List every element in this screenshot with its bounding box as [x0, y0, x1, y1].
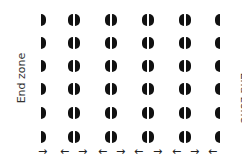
half-disc-left-icon [179, 37, 184, 49]
arrow-right-icon: → [116, 146, 125, 157]
end-zone-label-right: End zone [238, 73, 243, 124]
half-disc-right-icon [186, 131, 191, 143]
arrow-left-icon: ← [60, 146, 69, 157]
half-disc-right-icon [186, 107, 191, 119]
half-disc-left-icon [105, 14, 110, 26]
half-disc-right-icon [75, 83, 80, 95]
half-disc-right-icon [75, 60, 80, 72]
half-disc-right-icon [41, 37, 46, 49]
half-disc-left-icon [142, 131, 147, 143]
half-disc-left-icon [215, 60, 220, 72]
half-disc-right-icon [149, 37, 154, 49]
half-disc-left-icon [68, 83, 73, 95]
half-disc-right-icon [186, 60, 191, 72]
half-disc-left-icon [68, 107, 73, 119]
half-disc-left-icon [68, 14, 73, 26]
arrow-right-icon: → [38, 146, 47, 157]
end-zone-label-left: End zone [15, 53, 28, 104]
half-disc-right-icon [149, 83, 154, 95]
half-disc-left-icon [105, 83, 110, 95]
half-disc-right-icon [112, 60, 117, 72]
half-disc-right-icon [112, 131, 117, 143]
half-disc-right-icon [41, 107, 46, 119]
half-disc-left-icon [179, 60, 184, 72]
half-disc-left-icon [142, 14, 147, 26]
half-disc-right-icon [149, 60, 154, 72]
arrow-right-icon: → [78, 146, 87, 157]
half-disc-right-icon [112, 83, 117, 95]
half-disc-right-icon [112, 107, 117, 119]
half-disc-left-icon [179, 83, 184, 95]
half-disc-right-icon [75, 131, 80, 143]
half-disc-left-icon [68, 131, 73, 143]
half-disc-left-icon [215, 37, 220, 49]
half-disc-right-icon [186, 37, 191, 49]
half-disc-left-icon [68, 37, 73, 49]
half-disc-left-icon [215, 107, 220, 119]
half-disc-left-icon [142, 107, 147, 119]
half-disc-left-icon [105, 107, 110, 119]
arrow-left-icon: ← [208, 146, 217, 157]
arrow-left-icon: ← [98, 146, 107, 157]
half-disc-right-icon [75, 107, 80, 119]
half-disc-right-icon [41, 83, 46, 95]
half-disc-left-icon [105, 37, 110, 49]
half-disc-right-icon [149, 131, 154, 143]
half-disc-right-icon [41, 14, 46, 26]
half-disc-left-icon [105, 131, 110, 143]
arrow-right-icon: → [190, 146, 199, 157]
half-disc-right-icon [149, 107, 154, 119]
half-disc-left-icon [179, 14, 184, 26]
half-disc-right-icon [186, 14, 191, 26]
half-disc-left-icon [215, 83, 220, 95]
half-disc-left-icon [105, 60, 110, 72]
half-disc-left-icon [215, 131, 220, 143]
half-disc-left-icon [142, 37, 147, 49]
half-disc-left-icon [142, 83, 147, 95]
half-disc-right-icon [41, 60, 46, 72]
half-disc-right-icon [149, 14, 154, 26]
half-disc-left-icon [179, 131, 184, 143]
half-disc-right-icon [112, 14, 117, 26]
half-disc-right-icon [75, 14, 80, 26]
half-disc-right-icon [186, 83, 191, 95]
arrow-left-icon: ← [134, 146, 143, 157]
half-disc-left-icon [142, 60, 147, 72]
half-disc-right-icon [41, 131, 46, 143]
half-disc-left-icon [68, 60, 73, 72]
half-disc-left-icon [215, 14, 220, 26]
half-disc-left-icon [179, 107, 184, 119]
half-disc-right-icon [112, 37, 117, 49]
arrow-right-icon: → [153, 146, 162, 157]
arrow-left-icon: ← [172, 146, 181, 157]
half-disc-right-icon [75, 37, 80, 49]
